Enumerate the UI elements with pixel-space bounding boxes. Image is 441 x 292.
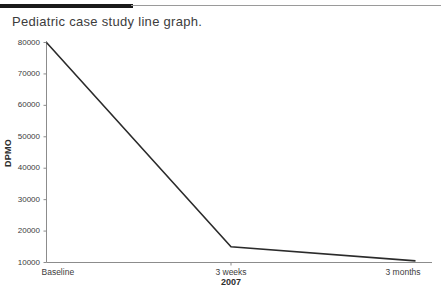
data-series-line — [47, 43, 416, 261]
x-tick-label: Baseline — [42, 267, 122, 277]
x-tick-label: 3 weeks — [191, 267, 271, 277]
y-tick-label: 20000 — [0, 226, 40, 235]
chart-svg — [0, 0, 441, 292]
y-tick-label: 10000 — [0, 258, 40, 267]
y-tick-label: 30000 — [0, 195, 40, 204]
x-tick-label: 3 months — [341, 267, 421, 277]
y-tick-label: 70000 — [0, 69, 40, 78]
line-chart: 1000020000300004000050000600007000080000… — [0, 0, 441, 292]
y-tick-label: 80000 — [0, 38, 40, 47]
x-axis-title: 2007 — [196, 277, 266, 287]
y-axis-title: DPMO — [3, 131, 13, 175]
y-tick-label: 60000 — [0, 100, 40, 109]
